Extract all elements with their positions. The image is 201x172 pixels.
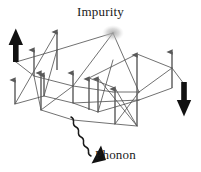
lattice-bond: [34, 76, 73, 86]
flipped-spin-down-head: [177, 100, 191, 117]
lattice-bond: [139, 68, 172, 92]
lattice-bond: [89, 54, 137, 78]
flipped-spin-up-arrow: [9, 29, 23, 63]
impurity-blob: [102, 25, 124, 41]
lattice-bond: [115, 92, 139, 124]
lattice-bond: [73, 33, 113, 86]
phonon-wave: [71, 117, 91, 156]
lattice-bond: [172, 68, 184, 84]
lattice-bond: [73, 120, 115, 124]
lattice-bond: [115, 88, 137, 126]
lattice-bond: [113, 33, 139, 92]
lattice-bond: [137, 54, 172, 68]
spin-arrows: [15, 32, 172, 126]
lattice-bond: [16, 62, 34, 76]
lattice-bond: [44, 50, 57, 96]
lattice-bond: [16, 50, 57, 62]
lattice-bond: [115, 124, 137, 126]
flipped-spin-down-shaft: [181, 82, 187, 102]
impurity-label: Impurity: [0, 5, 201, 18]
lattice-bond: [139, 88, 172, 100]
lattice-bond: [34, 76, 41, 110]
flipped-spin-down-arrow: [177, 82, 191, 117]
lattice-bond: [73, 103, 98, 112]
phonon-label: Phonon: [95, 148, 136, 161]
flipped-spin-up-head: [9, 29, 23, 46]
spin-lattice-figure: Impurity Phonon: [0, 0, 201, 172]
lattice-bond: [41, 110, 73, 120]
